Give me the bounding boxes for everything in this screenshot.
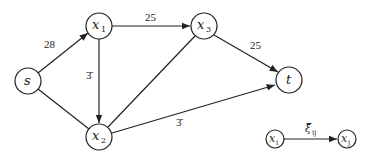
edge-label-x1-x3: 25 bbox=[145, 11, 157, 23]
edges bbox=[38, 26, 278, 133]
edge-s-x2 bbox=[38, 89, 89, 129]
edge-label-x1-x2: 3̄ bbox=[86, 69, 94, 81]
edge-x2-x3 bbox=[108, 36, 195, 127]
svg-text:s: s bbox=[24, 73, 31, 88]
node-x2: x 2 bbox=[86, 124, 112, 150]
svg-text:2: 2 bbox=[101, 136, 106, 145]
legend-edge-label: ξ̄ bbox=[305, 122, 312, 135]
node-s: s bbox=[15, 68, 41, 94]
edge-x2-t bbox=[112, 85, 275, 133]
legend: x i x j ξ̄ ij bbox=[266, 122, 356, 148]
legend-node-xi: x i bbox=[266, 130, 284, 148]
svg-text:x: x bbox=[92, 17, 100, 32]
legend-node-xj: x j bbox=[338, 130, 356, 148]
svg-text:x: x bbox=[269, 132, 276, 145]
svg-text:j: j bbox=[347, 139, 350, 147]
svg-text:x: x bbox=[92, 128, 100, 143]
svg-text:3: 3 bbox=[206, 25, 211, 34]
svg-text:t: t bbox=[286, 72, 292, 87]
svg-text:x: x bbox=[197, 17, 205, 32]
node-x3: x 3 bbox=[191, 13, 217, 39]
node-x1: x 1 bbox=[86, 13, 112, 39]
edge-x3-t bbox=[214, 35, 278, 72]
svg-text:x: x bbox=[341, 132, 348, 145]
edge-label-x2-t: 3̄ bbox=[176, 116, 184, 128]
svg-text:1: 1 bbox=[101, 25, 106, 34]
legend-edge-sub: ij bbox=[312, 129, 316, 137]
edge-labels: 28 25 25 3̄ 3̄ bbox=[44, 11, 262, 128]
flow-network-diagram: 28 25 25 3̄ 3̄ s x 1 x 3 t x 2 x i bbox=[0, 0, 368, 158]
edge-label-s-x1: 28 bbox=[44, 38, 56, 50]
edge-label-x3-t: 25 bbox=[250, 39, 262, 51]
node-t: t bbox=[276, 67, 302, 93]
